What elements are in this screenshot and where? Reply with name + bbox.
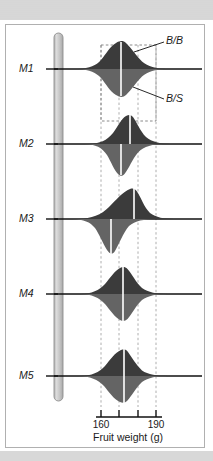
marker-row-M2 xyxy=(54,115,202,176)
density-M3-BB xyxy=(78,189,174,219)
marker-row-M1 xyxy=(54,41,202,97)
marker-row-M5 xyxy=(54,349,202,403)
density-M4-BS xyxy=(80,294,168,321)
top-band-edge xyxy=(0,20,213,22)
marker-label-M4: M4 xyxy=(19,287,34,299)
top-band-texture xyxy=(0,0,213,20)
marker-label-M3: M3 xyxy=(19,212,34,224)
xtick-label-190: 190 xyxy=(144,419,168,430)
bottom-gray-band xyxy=(0,451,213,461)
plot-area: M1 M2 M3 M4 M5 B/B B/S 160 190 Fruit wei… xyxy=(6,25,206,449)
plot-canvas xyxy=(6,25,206,449)
figure-root: M1 M2 M3 M4 M5 B/B B/S 160 190 Fruit wei… xyxy=(0,0,213,461)
density-M5-BS xyxy=(78,376,168,403)
density-M3-BS xyxy=(72,219,156,254)
density-M2-BS xyxy=(84,144,164,176)
x-axis-title: Fruit weight (g) xyxy=(62,431,194,443)
x-axis xyxy=(96,410,162,417)
density-M1-BB xyxy=(78,41,166,69)
density-M2-BB xyxy=(88,115,170,144)
marker-row-M4 xyxy=(54,267,202,321)
marker-label-M2: M2 xyxy=(19,137,34,149)
callout-label-BS: B/S xyxy=(166,92,183,104)
chromosome-bar xyxy=(54,33,63,401)
marker-label-M1: M1 xyxy=(19,62,34,74)
xtick-label-160: 160 xyxy=(89,419,113,430)
density-M4-BB xyxy=(80,267,168,294)
callout-label-BB: B/B xyxy=(166,34,183,46)
marker-label-M5: M5 xyxy=(19,369,34,381)
figure-panel: M1 M2 M3 M4 M5 B/B B/S 160 190 Fruit wei… xyxy=(5,24,205,448)
marker-row-M3 xyxy=(54,188,202,254)
top-gray-band xyxy=(0,0,213,20)
